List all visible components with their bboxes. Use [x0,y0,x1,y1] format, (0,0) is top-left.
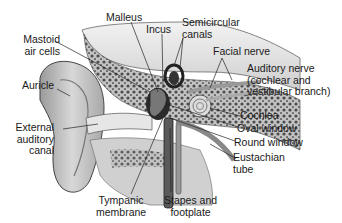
label-auricle: Auricle [22,80,54,92]
label-incus: Incus [146,24,171,36]
label-external-auditory-canal: Externalauditorycanal [6,122,54,157]
label-tympanic-membrane: Tympanicmembrane [96,195,146,218]
label-stapes-and-footplate: Stapes andfootplate [164,195,217,218]
ear-canal [86,113,152,134]
label-mastoid-air-cells: Mastoidair cells [16,34,60,57]
label-malleus: Malleus [106,12,142,24]
label-facial-nerve: Facial nerve [213,46,270,58]
label-cochlea: Cochlea [240,110,279,122]
label-eustachian-tube: Eustachiantube [233,152,285,175]
label-oval-window: Oval window [237,123,297,135]
label-semicircular-canals: Semicircularcanals [182,17,240,40]
ear-anatomy-diagram: Malleus Incus Semicircularcanals Mastoid… [0,0,342,223]
label-round-window: Round window [234,137,303,149]
label-auditory-nerve: Auditory nerve(cochlear andvestibular br… [247,63,330,98]
